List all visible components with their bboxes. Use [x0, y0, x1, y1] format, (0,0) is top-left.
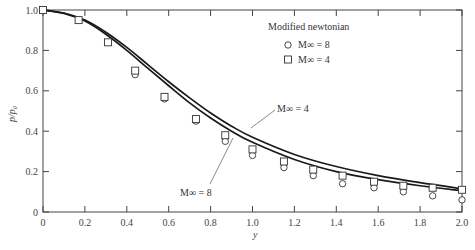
square-marker — [310, 166, 317, 173]
annotation-m8: M∞ = 8 — [180, 187, 212, 198]
square-marker — [132, 67, 139, 74]
circle-marker — [429, 193, 435, 199]
y-axis-label: p/p₀ — [6, 105, 17, 123]
x-tick-label: 1.2 — [288, 217, 301, 228]
legend: Modified newtonian M∞ = 8 M∞ = 4 — [268, 21, 349, 65]
y-tick-label: 0.8 — [26, 45, 39, 56]
curve-series-1 — [43, 10, 462, 191]
x-tick-label: 0.8 — [204, 217, 217, 228]
square-marker — [104, 39, 111, 46]
square-marker — [222, 132, 229, 139]
x-tick-label: 1.6 — [372, 217, 385, 228]
annotation-m4: M∞ = 4 — [277, 103, 309, 114]
square-marker-icon — [285, 56, 292, 63]
curve-series-0 — [43, 10, 462, 189]
theory-curves — [43, 10, 462, 191]
newtonian-data-points — [40, 7, 466, 204]
legend-title: Modified newtonian — [268, 21, 349, 32]
x-tick-label: 1.8 — [414, 217, 427, 228]
circle-marker — [459, 197, 465, 203]
x-axis-label: y — [252, 229, 258, 240]
x-tick-label: 0.4 — [121, 217, 134, 228]
square-marker — [371, 178, 378, 185]
y-tick-label: 0 — [33, 207, 38, 218]
square-marker — [429, 184, 436, 191]
pressure-distribution-chart: 00.20.40.60.81.01.21.41.61.82.000.20.40.… — [0, 0, 475, 250]
legend-entry-m4: M∞ = 4 — [298, 54, 330, 65]
x-tick-label: 1.4 — [330, 217, 343, 228]
square-marker — [459, 186, 466, 193]
square-marker — [40, 7, 47, 14]
square-marker — [339, 172, 346, 179]
x-tick-label: 1.0 — [246, 217, 259, 228]
circle-marker-icon — [285, 42, 291, 48]
x-tick-label: 0 — [41, 217, 46, 228]
y-tick-label: 0.4 — [26, 126, 39, 137]
circle-marker — [339, 181, 345, 187]
legend-entry-m8: M∞ = 8 — [298, 39, 330, 50]
square-marker — [192, 116, 199, 123]
square-marker — [280, 158, 287, 165]
square-marker — [161, 93, 168, 100]
y-tick-label: 0.6 — [26, 85, 39, 96]
x-tick-label: 0.2 — [79, 217, 92, 228]
square-marker — [400, 182, 407, 189]
annotation-leader-m8 — [210, 138, 233, 184]
y-tick-label: 1.0 — [26, 5, 39, 16]
square-marker — [249, 146, 256, 153]
annotation-leader-m4 — [251, 110, 275, 128]
x-tick-label: 0.6 — [162, 217, 175, 228]
x-tick-label: 2.0 — [456, 217, 469, 228]
y-tick-label: 0.2 — [26, 166, 39, 177]
square-marker — [75, 17, 82, 24]
